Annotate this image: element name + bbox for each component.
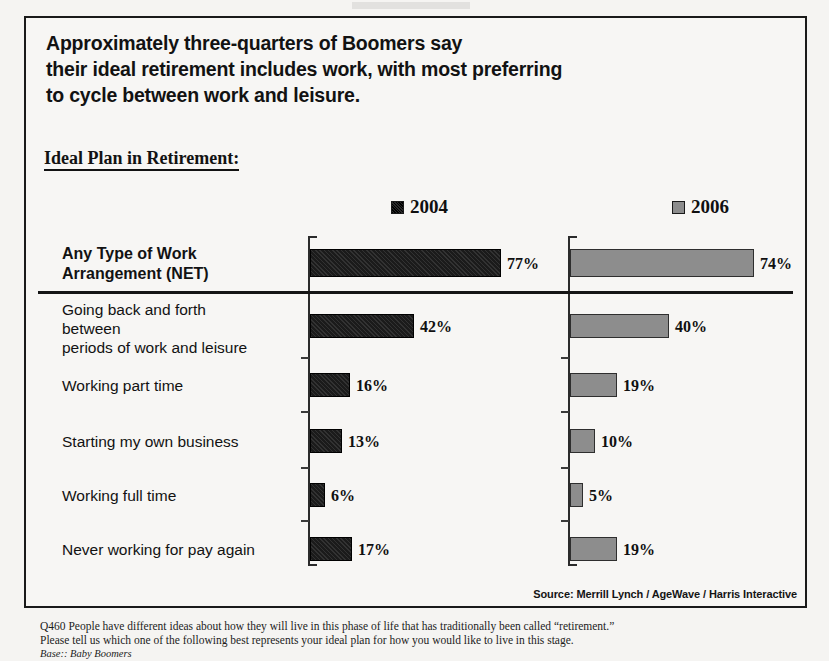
title-line-2: their ideal retirement includes work, wi… bbox=[46, 56, 746, 82]
bar-2004 bbox=[310, 483, 325, 507]
legend-swatch-2004-icon bbox=[391, 201, 404, 214]
category-label: Working part time bbox=[62, 376, 302, 395]
category-label-line: between bbox=[62, 320, 121, 337]
category-label-line: Going back and forth bbox=[62, 301, 206, 318]
legend-label-2006: 2006 bbox=[691, 196, 729, 217]
bar-value-2004: 13% bbox=[348, 433, 380, 451]
axis-cap-2006-bottom bbox=[568, 564, 577, 566]
axis-tick bbox=[561, 520, 569, 522]
axis-tick bbox=[301, 357, 309, 359]
category-label: Any Type of Work Arrangement (NET) bbox=[62, 244, 302, 284]
axis-tick bbox=[301, 411, 309, 413]
chart-plot-area: Any Type of Work Arrangement (NET) 77% 7… bbox=[24, 228, 807, 578]
chart-subtitle: Ideal Plan in Retirement: bbox=[44, 148, 239, 171]
bar-2004 bbox=[310, 314, 414, 338]
bar-2004 bbox=[310, 429, 342, 453]
bar-value-2004: 17% bbox=[358, 541, 390, 559]
bar-2004 bbox=[310, 249, 501, 277]
category-label-line: Arrangement (NET) bbox=[62, 265, 209, 282]
bar-2006 bbox=[570, 314, 669, 338]
category-label-line: Never working for pay again bbox=[62, 541, 255, 558]
category-axis-2004 bbox=[308, 236, 310, 566]
bar-value-2006: 74% bbox=[760, 255, 792, 273]
axis-cap-2004-top bbox=[308, 236, 317, 238]
page-title: Approximately three-quarters of Boomers … bbox=[46, 30, 746, 108]
bar-2004 bbox=[310, 373, 350, 397]
bar-2006 bbox=[570, 483, 583, 507]
axis-tick bbox=[561, 411, 569, 413]
title-line-1: Approximately three-quarters of Boomers … bbox=[46, 30, 746, 56]
title-line-3: to cycle between work and leisure. bbox=[46, 82, 746, 108]
bar-2006 bbox=[570, 537, 617, 561]
axis-tick bbox=[561, 357, 569, 359]
axis-tick bbox=[301, 467, 309, 469]
bar-2006 bbox=[570, 373, 617, 397]
bar-value-2004: 77% bbox=[507, 255, 539, 273]
category-label-line: Working full time bbox=[62, 487, 176, 504]
footnote-line-1: Q460 People have different ideas about h… bbox=[40, 620, 820, 634]
category-label: Going back and forth between periods of … bbox=[62, 300, 302, 357]
bar-value-2006: 10% bbox=[601, 433, 633, 451]
footnote-base-line: Base:: Baby Boomers bbox=[40, 647, 820, 661]
category-label: Starting my own business bbox=[62, 432, 302, 451]
slide-canvas: Approximately three-quarters of Boomers … bbox=[0, 0, 829, 661]
axis-tick bbox=[561, 467, 569, 469]
axis-cap-2006-top bbox=[568, 236, 577, 238]
bar-value-2006: 19% bbox=[623, 541, 655, 559]
bar-2006 bbox=[570, 249, 754, 277]
bar-2006 bbox=[570, 429, 595, 453]
bar-value-2004: 16% bbox=[356, 377, 388, 395]
category-label-line: periods of work and leisure bbox=[62, 339, 247, 356]
axis-cap-2004-bottom bbox=[308, 564, 317, 566]
bar-value-2004: 6% bbox=[331, 487, 355, 505]
category-label: Never working for pay again bbox=[62, 540, 302, 559]
legend-label-2004: 2004 bbox=[410, 196, 448, 217]
footnote-block: Q460 People have different ideas about h… bbox=[40, 620, 820, 661]
category-label-line: Starting my own business bbox=[62, 433, 239, 450]
footnote-line-2: Please tell us which one of the followin… bbox=[40, 634, 820, 648]
bar-value-2006: 5% bbox=[589, 487, 613, 505]
bar-2004 bbox=[310, 537, 352, 561]
category-label-line: Working part time bbox=[62, 377, 183, 394]
legend-item-2004: 2004 bbox=[391, 196, 448, 218]
legend-item-2006: 2006 bbox=[672, 196, 729, 218]
bar-value-2004: 42% bbox=[420, 318, 452, 336]
net-separator-rule bbox=[38, 291, 793, 294]
category-axis-2006 bbox=[568, 236, 570, 566]
legend-swatch-2006-icon bbox=[672, 201, 685, 214]
axis-tick bbox=[301, 520, 309, 522]
category-label: Working full time bbox=[62, 486, 302, 505]
category-label-line: Any Type of Work bbox=[62, 245, 197, 262]
bar-value-2006: 40% bbox=[675, 318, 707, 336]
scan-artifact bbox=[352, 2, 470, 9]
bar-value-2006: 19% bbox=[623, 377, 655, 395]
source-credit: Source: Merrill Lynch / AgeWave / Harris… bbox=[533, 588, 797, 600]
